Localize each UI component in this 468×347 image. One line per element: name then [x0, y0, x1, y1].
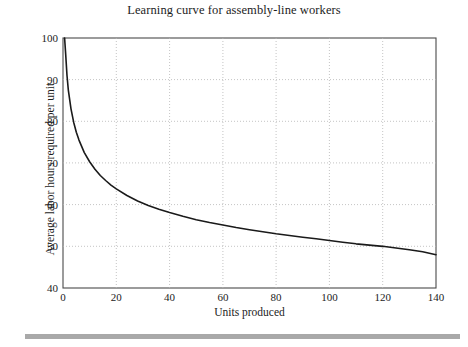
y-tick-label-70: 70 — [24, 157, 58, 169]
y-tick-label-60: 60 — [24, 199, 58, 211]
x-tick-label-20: 20 — [96, 291, 136, 303]
x-tick-label-120: 120 — [363, 291, 403, 303]
footer-rule — [25, 334, 460, 339]
x-tick-label-40: 40 — [150, 291, 190, 303]
x-tick-label-80: 80 — [256, 291, 296, 303]
x-tick-label-100: 100 — [309, 291, 349, 303]
plot-area: Average labor hours required per unit Un… — [0, 0, 468, 347]
y-tick-label-90: 90 — [24, 74, 58, 86]
x-tick-label-0: 0 — [43, 291, 83, 303]
y-tick-label-100: 100 — [24, 32, 58, 44]
y-tick-label-50: 50 — [24, 240, 58, 252]
x-tick-label-140: 140 — [416, 291, 456, 303]
x-tick-label-60: 60 — [203, 291, 243, 303]
x-axis-title: Units produced — [63, 306, 436, 318]
chart-figure: Learning curve for assembly-line workers — [0, 0, 468, 347]
y-tick-label-80: 80 — [24, 115, 58, 127]
